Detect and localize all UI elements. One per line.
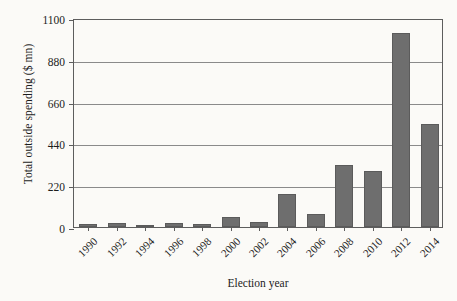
bar-2000 (222, 217, 240, 227)
y-tick-label: 880 (48, 56, 65, 68)
bar-chart: Total outside spending ($ mn) 0220440660… (0, 0, 457, 301)
bar-2006 (307, 214, 325, 227)
y-tick-label: 220 (48, 181, 65, 193)
x-tick-label-1996: 1996 (155, 235, 185, 265)
x-tick-label-2006: 2006 (298, 235, 328, 265)
y-axis-title: Total outside spending ($ mn) (22, 4, 34, 224)
bar-2010 (364, 171, 382, 227)
x-tick-label-1994: 1994 (127, 235, 157, 265)
x-tick-label-1998: 1998 (184, 235, 214, 265)
x-tick-label-2010: 2010 (355, 235, 385, 265)
bar-2012 (392, 33, 410, 227)
bar-2004 (278, 194, 296, 227)
x-tick-label-2014: 2014 (412, 235, 442, 265)
x-tick-mark (88, 227, 89, 231)
x-axis-title: Election year (73, 277, 443, 289)
x-tick-mark (430, 227, 431, 231)
x-tick-label-1992: 1992 (98, 235, 128, 265)
x-tick-label-2012: 2012 (383, 235, 413, 265)
y-tick-mark (69, 229, 74, 230)
x-tick-label-2008: 2008 (326, 235, 356, 265)
y-tick-label: 1100 (42, 14, 65, 26)
plot-area: 02204406608801100 (73, 19, 443, 228)
x-tick-mark (344, 227, 345, 231)
x-tick-mark (174, 227, 175, 231)
x-tick-mark (117, 227, 118, 231)
bar-2014 (421, 124, 439, 227)
x-tick-label-1990: 1990 (70, 235, 100, 265)
x-tick-mark (202, 227, 203, 231)
bars-layer (74, 20, 442, 227)
y-tick-label: 440 (48, 139, 65, 151)
x-tick-mark (259, 227, 260, 231)
x-tick-label-2002: 2002 (241, 235, 271, 265)
y-tick-label: 660 (48, 98, 65, 110)
x-tick-mark (287, 227, 288, 231)
x-tick-mark (145, 227, 146, 231)
x-tick-mark (401, 227, 402, 231)
x-tick-label-2000: 2000 (212, 235, 242, 265)
x-tick-mark (231, 227, 232, 231)
x-tick-label-2004: 2004 (269, 235, 299, 265)
bar-2008 (335, 165, 353, 227)
x-tick-mark (316, 227, 317, 231)
x-tick-mark (373, 227, 374, 231)
y-tick-label: 0 (59, 223, 65, 235)
